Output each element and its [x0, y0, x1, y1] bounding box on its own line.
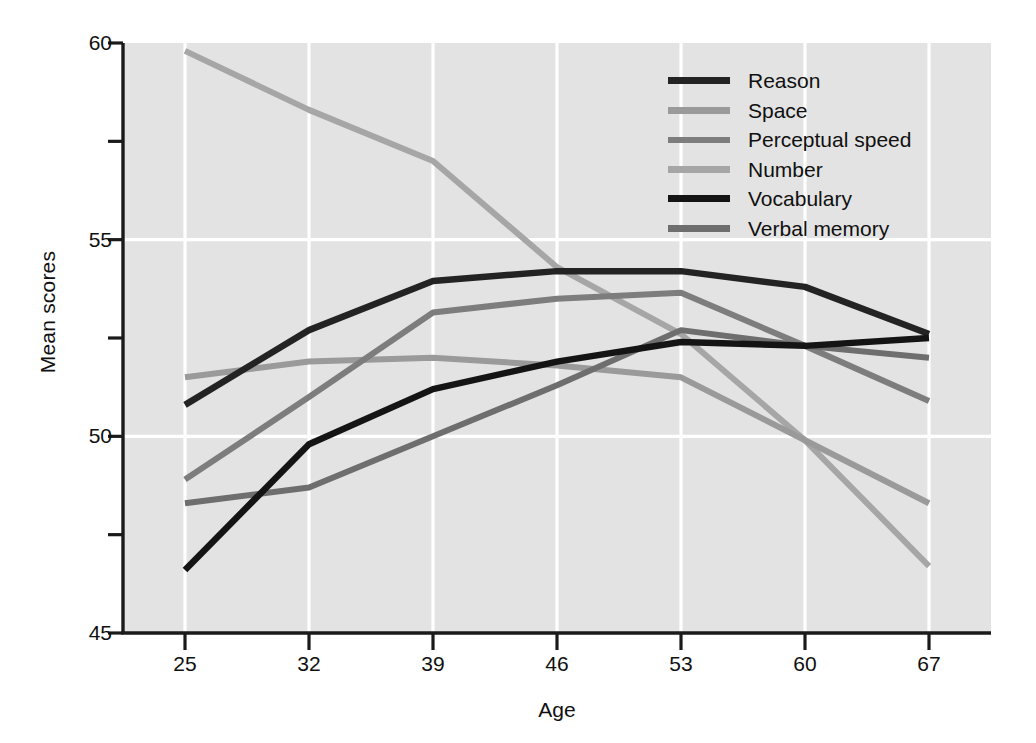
legend-item-label: Perceptual speed [748, 129, 911, 150]
legend-item-label: Number [748, 159, 823, 180]
x-tick-label: 25 [150, 652, 220, 676]
legend-item-label: Vocabulary [748, 188, 852, 209]
legend-item: Space [668, 96, 968, 126]
legend-item: Verbal memory [668, 214, 968, 244]
legend-item: Perceptual speed [668, 125, 968, 155]
line-chart-figure: Mean scores 60555045 25323946536067 Age … [0, 0, 1036, 743]
legend-item: Vocabulary [668, 184, 968, 214]
x-tick-label: 39 [398, 652, 468, 676]
legend-item-label: Space [748, 100, 808, 121]
y-axis-tick-labels: 60555045 [52, 0, 112, 743]
legend-item-label: Verbal memory [748, 218, 889, 239]
legend-swatch-line-icon [668, 195, 730, 202]
legend-swatch-line-icon [668, 107, 730, 114]
chart-legend: ReasonSpacePerceptual speedNumberVocabul… [668, 66, 968, 243]
x-tick-label: 67 [894, 652, 964, 676]
y-tick-label: 55 [66, 228, 112, 252]
legend-swatch-line-icon [668, 137, 730, 144]
x-tick-label: 53 [646, 652, 716, 676]
legend-swatch-line-icon [668, 77, 730, 84]
legend-item: Reason [668, 66, 968, 96]
legend-item: Number [668, 155, 968, 185]
x-tick-label: 46 [522, 652, 592, 676]
legend-swatch-line-icon [668, 225, 730, 232]
legend-item-label: Reason [748, 70, 820, 91]
x-axis-title: Age [123, 698, 991, 722]
x-tick-label: 60 [770, 652, 840, 676]
y-tick-label: 45 [66, 621, 112, 645]
legend-swatch-line-icon [668, 166, 730, 173]
y-tick-label: 50 [66, 424, 112, 448]
x-tick-label: 32 [274, 652, 344, 676]
y-tick-label: 60 [66, 31, 112, 55]
